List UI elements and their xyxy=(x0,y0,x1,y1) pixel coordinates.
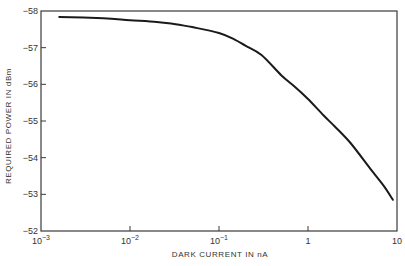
plot-frame xyxy=(41,11,397,231)
y-tick-label: −54 xyxy=(23,153,38,163)
x-tick-label: 1 xyxy=(305,236,310,246)
x-axis-title: DARK CURRENT IN nA xyxy=(172,250,269,259)
chart: −58−57−56−55−54−53−52 10−310−210−1110 DA… xyxy=(0,0,405,266)
x-axis-ticks: 10−310−210−1110 xyxy=(32,226,402,246)
x-tick-label: 10−2 xyxy=(121,234,139,246)
x-tick-label: 10−3 xyxy=(32,234,50,246)
y-tick-label: −55 xyxy=(23,116,38,126)
plot-border xyxy=(41,11,397,231)
y-tick-label: −53 xyxy=(23,189,38,199)
y-tick-label: −57 xyxy=(23,43,38,53)
y-tick-label: −58 xyxy=(23,6,38,16)
x-tick-label: 10 xyxy=(392,236,402,246)
power-curve xyxy=(59,17,393,200)
y-tick-label: −52 xyxy=(23,226,38,236)
y-axis-ticks: −58−57−56−55−54−53−52 xyxy=(23,6,46,236)
x-tick-label: 10−1 xyxy=(210,234,228,246)
data-series xyxy=(59,17,393,200)
y-tick-label: −56 xyxy=(23,79,38,89)
y-axis-title: REQUIRED POWER IN dBm xyxy=(4,68,13,184)
